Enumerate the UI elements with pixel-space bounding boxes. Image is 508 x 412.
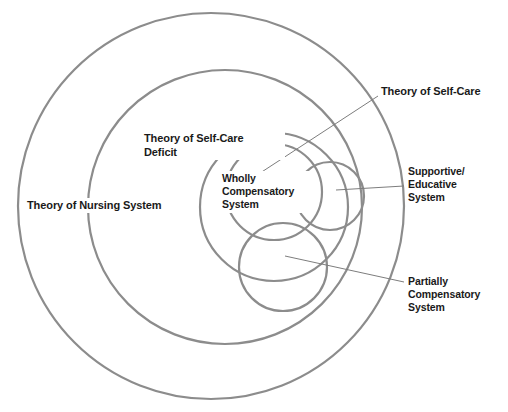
lobe-partially-compensatory-system (239, 223, 327, 311)
label-theory-of-self-care: Theory of Self-Care (381, 85, 481, 99)
label-theory-of-self-care-deficit: Theory of Self-Care Deficit (144, 132, 244, 159)
label-wholly-compensatory-system: Wholly Compensatory System (222, 172, 294, 211)
label-theory-of-nursing-system: Theory of Nursing System (27, 199, 162, 213)
label-partially-compensatory-system: Partially Compensatory System (408, 275, 480, 314)
leader-line-partially-compensatory-system (285, 256, 404, 282)
diagram-canvas: Theory of Nursing System Theory of Self-… (0, 0, 508, 412)
label-supportive-educative-system: Supportive/ Educative System (408, 165, 465, 204)
